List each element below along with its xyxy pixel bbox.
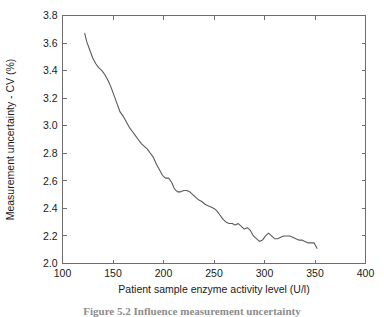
- x-tick-label: 250: [205, 267, 223, 279]
- y-tick-label: 3.0: [43, 119, 58, 131]
- y-tick-label: 2.0: [43, 257, 58, 269]
- plot-frame: [63, 16, 366, 264]
- figure-caption: Figure 5.2 Influence measurement uncerta…: [0, 305, 384, 317]
- y-tick-label: 3.6: [43, 37, 58, 49]
- x-tick-label: 400: [357, 267, 375, 279]
- y-tick-label: 2.4: [43, 202, 58, 214]
- y-axis-title: Measurement uncertainty - CV (%): [4, 59, 16, 221]
- y-tick-label: 3.2: [43, 92, 58, 104]
- y-tick-label: 2.8: [43, 147, 58, 159]
- data-line-series: [85, 33, 317, 248]
- y-tick-label: 2.6: [43, 175, 58, 187]
- x-axis-title: Patient sample enzyme activity level (U/…: [118, 283, 309, 295]
- x-tick-label: 150: [104, 267, 122, 279]
- y-tick-label: 3.4: [43, 64, 58, 76]
- x-tick-label: 350: [306, 267, 324, 279]
- x-tick-label: 300: [256, 267, 274, 279]
- y-tick-label: 3.8: [43, 9, 58, 21]
- y-tick-label: 2.2: [43, 230, 58, 242]
- x-tick-label: 200: [155, 267, 173, 279]
